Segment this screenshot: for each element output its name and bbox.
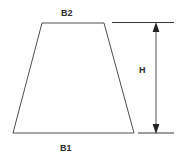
figure-canvas bbox=[0, 0, 178, 160]
trapezoid-outline bbox=[13, 23, 134, 133]
arrow-up-icon bbox=[153, 22, 160, 32]
top-base-label: B2 bbox=[61, 9, 73, 18]
trapezoid-diagram: B2 B1 H bbox=[0, 0, 178, 160]
height-label: H bbox=[139, 66, 146, 75]
bottom-base-label: B1 bbox=[60, 144, 72, 153]
